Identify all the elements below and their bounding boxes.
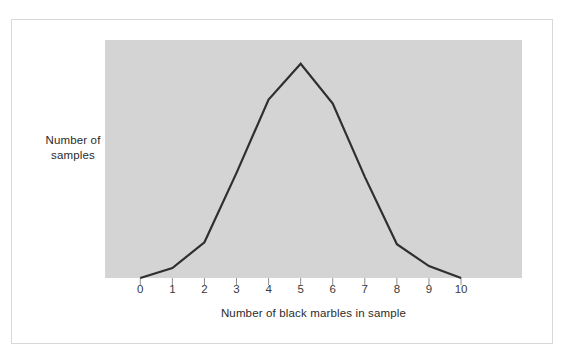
x-tick-label-9: 9 bbox=[417, 283, 441, 295]
y-axis-title-line1: Number of bbox=[30, 133, 116, 148]
plot-area bbox=[105, 40, 522, 278]
x-tick-label-7: 7 bbox=[353, 283, 377, 295]
x-tick-label-8: 8 bbox=[385, 283, 409, 295]
x-tick-label-6: 6 bbox=[321, 283, 345, 295]
x-tick-label-5: 5 bbox=[289, 283, 313, 295]
x-tick-label-0: 0 bbox=[128, 283, 152, 295]
x-tick-label-3: 3 bbox=[225, 283, 249, 295]
x-tick-label-2: 2 bbox=[192, 283, 216, 295]
y-axis-title-line2: samples bbox=[30, 148, 116, 163]
x-tick-label-4: 4 bbox=[257, 283, 281, 295]
x-axis-title: Number of black marbles in sample bbox=[105, 307, 522, 319]
y-axis-title: Number of samples bbox=[30, 133, 116, 163]
x-tick-label-1: 1 bbox=[160, 283, 184, 295]
x-tick-label-10: 10 bbox=[449, 283, 473, 295]
